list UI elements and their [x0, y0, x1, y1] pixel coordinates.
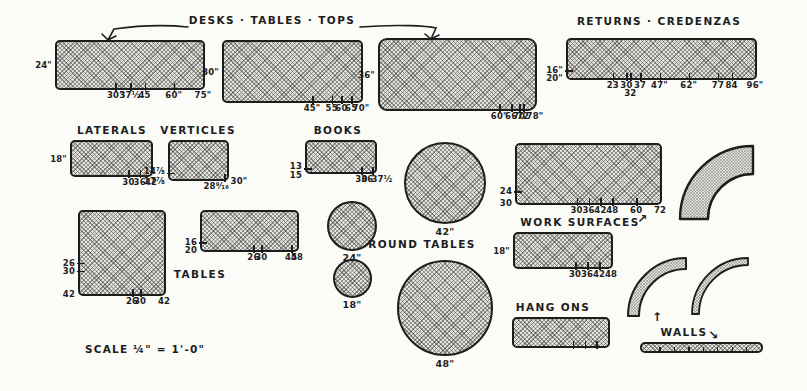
bookcase-template: 303637½1315: [305, 140, 377, 174]
dim-label: 32: [624, 89, 636, 97]
dim-label: 48: [291, 253, 303, 261]
tables-title: TABLES: [174, 268, 226, 280]
curved-wall-template-thin: [688, 256, 750, 316]
dim-tick: [77, 263, 85, 265]
desk-top-24in-template: 30"37½4560"75"24": [55, 40, 205, 90]
dim-label: 20: [185, 246, 197, 254]
dim-label: 72: [654, 206, 666, 214]
dim-label: 24": [35, 61, 52, 69]
returns-credenzas-template: 2330323747"62"778496"16"20": [566, 38, 757, 80]
round-table-48in-label: 48": [436, 360, 455, 368]
dim-label: 15: [290, 171, 302, 179]
wall-tick-marks: [646, 347, 757, 351]
work-surfaces-arrow-icon: ↗: [637, 212, 647, 226]
dim-label: 96": [747, 81, 764, 89]
books-title: BOOKS: [314, 124, 363, 136]
dim-tick: [167, 173, 175, 175]
dim-label: 18": [493, 247, 510, 255]
walls-title: WALLS: [660, 326, 707, 338]
vertical-file-template: 28⁹⁄₁₆30"14⅞17⅞: [168, 140, 229, 181]
dim-label: 45": [304, 104, 321, 112]
dim-label: 48: [606, 206, 618, 214]
dim-label: 70": [353, 104, 370, 112]
dim-label: 78": [527, 112, 544, 120]
dim-label: 18": [50, 155, 67, 163]
round-tables-title: ROUND TABLES: [368, 238, 475, 250]
dim-tick: [199, 242, 207, 244]
laterals-title: LATERALS: [77, 124, 147, 136]
dim-label: 37: [634, 81, 646, 89]
dim-tick: [77, 271, 85, 273]
dim-tick: [630, 73, 632, 81]
straight-wall-template: [640, 342, 763, 353]
dim-tick: [596, 341, 598, 349]
round-table-18in: [333, 259, 372, 298]
dim-tick: [573, 341, 575, 349]
dim-tick: [585, 341, 587, 349]
dim-label: 30: [255, 253, 267, 261]
dim-label: 36: [581, 270, 593, 278]
curved-wall-template-thick: [626, 254, 688, 318]
dim-label: 62": [680, 81, 697, 89]
dim-label: 37½: [119, 91, 140, 99]
dim-label: 42: [593, 270, 605, 278]
dim-label: 36": [358, 71, 375, 79]
scale-note: SCALE ¼" = 1'-0": [85, 343, 205, 355]
lateral-file-template: 30364218": [70, 140, 153, 177]
dim-label: 23: [607, 81, 619, 89]
dim-label: 77: [712, 81, 724, 89]
verticles-title: VERTICLES: [160, 124, 236, 136]
dim-label: 30: [63, 267, 75, 275]
dim-label: 28⁹⁄₁₆: [203, 182, 229, 190]
furniture-template-diagram: DESKS · TABLES · TOPS RETURNS · CREDENZA…: [0, 0, 807, 391]
square-table-template: 263042263042: [78, 210, 166, 296]
dim-label: 30: [569, 270, 581, 278]
work-surface-template: 3036424860722430: [515, 143, 662, 205]
dim-label: 42: [594, 206, 606, 214]
work-surfaces-title: WORK SURFACES: [520, 216, 639, 228]
returns-section-title: RETURNS · CREDENZAS: [577, 15, 741, 27]
desk-top-36in-template: 60"66707278"36": [378, 38, 537, 111]
dim-label: 30: [134, 297, 146, 305]
dim-tick: [304, 168, 312, 170]
dim-label: 84: [726, 81, 738, 89]
dim-label: 30": [231, 177, 248, 185]
dim-label: 60": [165, 91, 182, 99]
dim-label: 13: [290, 162, 302, 170]
work-surface-18in-template: 3036424818": [513, 232, 613, 269]
curved-work-surface-template: [676, 142, 754, 220]
dim-tick: [565, 70, 573, 72]
dim-label: 36: [582, 206, 594, 214]
dim-label: 30: [500, 199, 512, 207]
rect-table-template: 263045481620: [200, 210, 299, 252]
dim-label: 30": [202, 68, 219, 76]
round-table-18in-label: 18": [343, 301, 362, 309]
round-table-42in: [404, 142, 486, 224]
dim-label: 75": [195, 91, 212, 99]
dim-label: 17⅞: [144, 177, 165, 185]
dim-label: 14⅞: [144, 167, 165, 175]
round-table-48in: [397, 260, 493, 356]
walls-down-right-arrow-icon: ↘: [708, 328, 718, 342]
round-table-42in-label: 42": [436, 228, 455, 236]
dim-label: 42: [158, 297, 170, 305]
hang-on-template: [512, 317, 610, 348]
round-table-24in-label: 24": [343, 254, 362, 262]
dim-label: 42: [63, 290, 75, 298]
dim-label: 45: [138, 91, 150, 99]
dim-label: 20": [546, 74, 563, 82]
dim-label: 24: [500, 187, 512, 195]
walls-up-arrow-icon: ↑: [652, 310, 662, 324]
desks-section-title: DESKS · TABLES · TOPS: [184, 14, 360, 26]
dim-label: 37½: [371, 175, 392, 183]
dim-label: 47": [651, 81, 668, 89]
dim-label: 48: [605, 270, 617, 278]
desk-top-30in-template: 45"55606570"30": [222, 40, 363, 103]
dim-tick: [514, 191, 522, 193]
hang-ons-title: HANG ONS: [516, 301, 590, 313]
dim-label: 30: [570, 206, 582, 214]
